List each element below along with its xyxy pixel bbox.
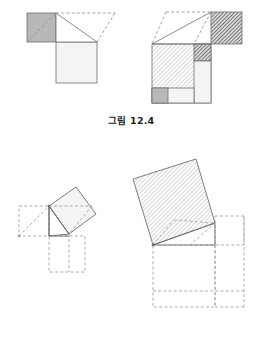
- figure-12-5-canvas: [0, 150, 262, 357]
- dashed-square-on-long-leg-right: [153, 245, 215, 307]
- vertex-dot-left-outer: [18, 235, 21, 238]
- light-rect-right: [194, 61, 211, 103]
- dashed-square-on-short-leg-right: [215, 216, 244, 245]
- fig-12-4-left-panel: [27, 13, 115, 83]
- right-triangle: [56, 13, 97, 42]
- vertex-dot-left: [48, 205, 51, 208]
- tilted-hatched-square: [133, 159, 215, 245]
- caption-label: 그림: [108, 115, 126, 126]
- mid-gray-square-bottom-left: [152, 88, 168, 103]
- figure-12-4: 그림12.4: [0, 0, 262, 140]
- dashed-square-on-long-leg-left: [49, 236, 85, 272]
- fig-12-5-right-panel: [133, 159, 244, 307]
- dark-hatched-rect-top: [211, 12, 242, 44]
- fig-12-5-left-panel: [18, 187, 96, 272]
- large-light-square: [56, 42, 97, 83]
- caption-figure-12-4: 그림12.4: [0, 113, 262, 127]
- dark-hatched-square-inner: [194, 44, 211, 61]
- fig-12-4-right-panel: [152, 12, 242, 103]
- vertex-dot-right: [152, 244, 155, 247]
- caption-number: 12.4: [130, 115, 154, 126]
- figure-12-5: 그림12.5: [0, 150, 262, 357]
- tilted-light-square: [49, 187, 96, 234]
- page: 그림12.4: [0, 0, 262, 357]
- dashed-right-diagonal: [97, 13, 115, 42]
- dashed-diagonal-left-a: [19, 206, 49, 236]
